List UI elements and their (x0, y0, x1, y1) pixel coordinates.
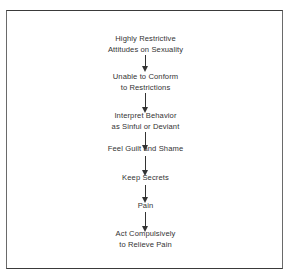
node-unable-to-conform: Unable to Conform to Restrictions (60, 72, 231, 93)
arrow-down-icon (142, 55, 150, 72)
node-line: Interpret Behavior (60, 111, 231, 122)
node-line: Pain (60, 201, 231, 212)
node-line: Highly Restrictive (60, 34, 231, 45)
node-pain: Pain (60, 201, 231, 212)
node-line: Keep Secrets (60, 173, 231, 184)
node-restrictive-attitudes: Highly Restrictive Attitudes on Sexualit… (60, 34, 231, 55)
node-line: Feel Guilt and Shame (60, 144, 231, 155)
arrow-down-icon (142, 93, 150, 113)
node-interpret-behavior: Interpret Behavior as Sinful or Deviant (60, 111, 231, 132)
node-line: to Relieve Pain (60, 240, 231, 251)
node-line: as Sinful or Deviant (60, 122, 231, 133)
node-line: Attitudes on Sexuality (60, 45, 231, 56)
node-keep-secrets: Keep Secrets (60, 173, 231, 184)
node-line: Unable to Conform (60, 72, 231, 83)
node-line: Act Compulsively (60, 229, 231, 240)
node-line: to Restrictions (60, 83, 231, 94)
node-guilt-and-shame: Feel Guilt and Shame (60, 144, 231, 155)
node-act-compulsively: Act Compulsively to Relieve Pain (60, 229, 231, 250)
